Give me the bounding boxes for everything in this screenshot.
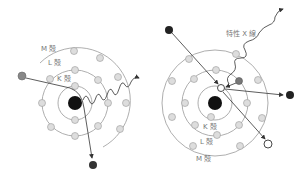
right-xray-wave [227,9,283,84]
electron [95,123,102,130]
electron [48,124,55,131]
electron [214,132,221,139]
electron [236,122,243,129]
left-k-shell-label: K 殻 [57,74,71,83]
left-deflected-particle [89,161,97,169]
left-m-shell-label: M 殻 [41,44,56,53]
electron [169,78,176,85]
electron [105,100,112,107]
electron [47,76,54,83]
electron [244,100,251,107]
electron [213,67,220,74]
right-ejected-path [225,89,283,95]
right-l-shell-label: L 殻 [200,137,213,146]
electron [259,115,266,122]
right-scattered-particle [264,140,272,148]
right-nucleus [208,96,222,110]
electron [72,133,79,140]
left-particle-path [26,78,92,158]
left-nucleus [68,96,82,110]
electron [115,74,122,81]
right-m-shell-label: M 殻 [196,154,211,163]
electron [72,117,79,124]
right-ejected-electron [286,91,294,99]
left-l-shell-label: L 殻 [48,58,61,67]
electron [237,143,244,150]
right-transition-electron [236,78,243,85]
right-vacancy [218,85,225,92]
electron [191,76,198,83]
right-incident-particle [165,26,173,34]
electron [71,48,78,55]
electron [182,100,189,107]
electron [123,100,130,107]
right-xray-label: 特性 X 線 [226,29,256,38]
electron [39,100,46,107]
electron [117,126,124,133]
right-k-shell-label: K 殻 [203,122,217,131]
electron [169,114,176,121]
electron [192,122,199,129]
right-scattered-path [223,92,265,139]
electron [255,77,262,84]
electron [72,67,79,74]
electron [233,51,240,58]
electron [186,56,193,63]
electron [97,55,104,62]
diagram-canvas: M 殻 L 殻 K 殻 [0,0,305,178]
electron [190,143,197,150]
right-transition-arrow [226,83,236,87]
electron [72,83,79,90]
left-atom: M 殻 L 殻 K 殻 [18,44,139,169]
left-incident-particle [18,72,26,80]
electron [208,114,215,121]
electron [95,77,102,84]
right-atom: 特性 X 線 K 殻 L 殻 M 殻 [162,9,294,163]
